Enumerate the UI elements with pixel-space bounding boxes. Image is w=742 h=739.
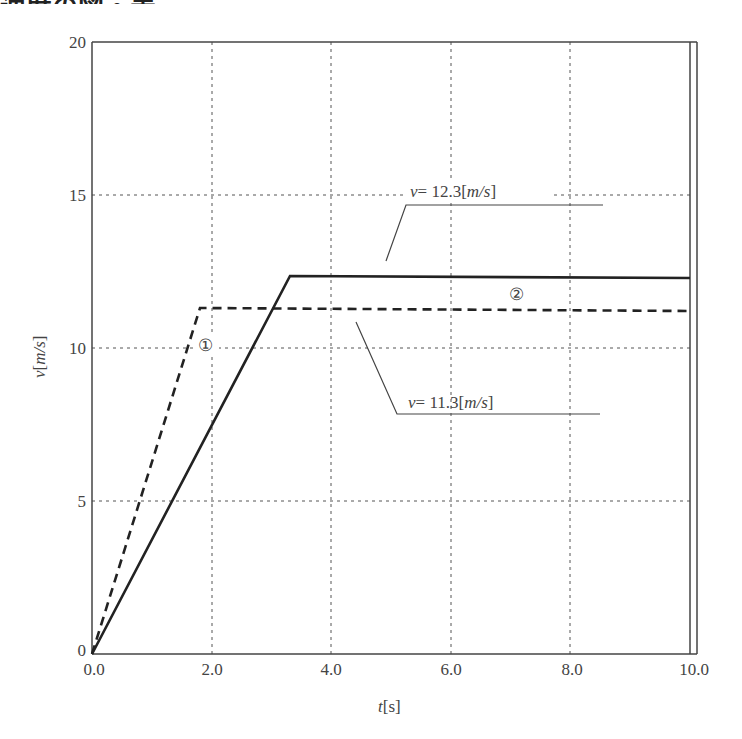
x-tick-4: 4.0 — [320, 660, 341, 679]
y-axis-ticks: 20 15 10 5 0 — [69, 33, 86, 660]
y-axis-label: v[m/s] — [30, 335, 49, 378]
x-tick-0: 0.0 — [83, 660, 104, 679]
y-tick-5: 5 — [78, 492, 87, 511]
annotation-upper-text: v= 12.3[m/s] — [410, 182, 496, 201]
x-tick-10: 10.0 — [679, 660, 709, 679]
y-tick-15: 15 — [69, 186, 86, 205]
y-tick-20: 20 — [69, 33, 86, 52]
x-tick-6: 6.0 — [440, 660, 461, 679]
x-tick-8: 8.0 — [561, 660, 582, 679]
annotation-lower-text: v= 11.3[m/s] — [408, 393, 493, 412]
x-axis-ticks: 0.0 2.0 4.0 6.0 8.0 10.0 — [83, 660, 709, 679]
x-axis-label: t[s] — [378, 697, 401, 716]
grid — [92, 42, 690, 654]
series-2-solid-line — [92, 276, 690, 654]
velocity-time-chart: v= 12.3[m/s] v= 11.3[m/s] ① ② 20 15 10 5… — [0, 0, 742, 739]
y-tick-0: 0 — [78, 641, 87, 660]
series-2-marker: ② — [509, 285, 524, 304]
series-1-marker: ① — [198, 336, 213, 355]
x-tick-2: 2.0 — [201, 660, 222, 679]
y-tick-10: 10 — [69, 339, 86, 358]
